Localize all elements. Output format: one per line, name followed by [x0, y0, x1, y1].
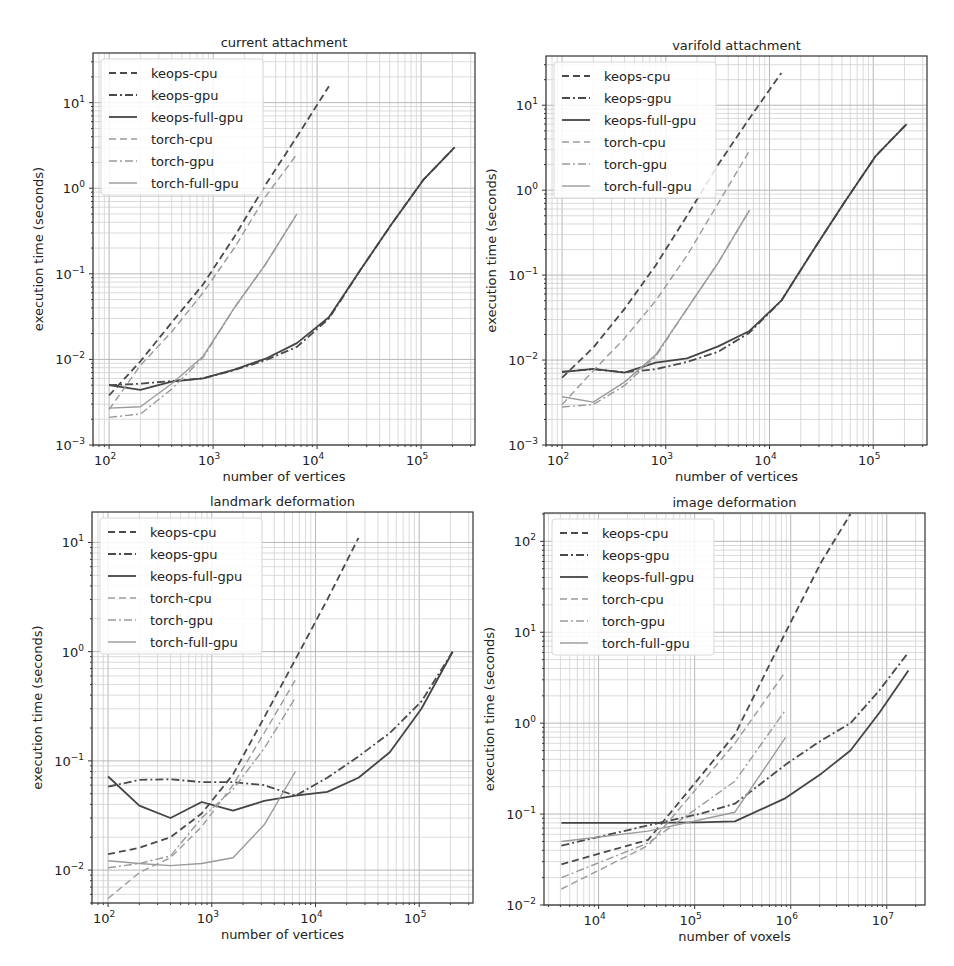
legend-label-keops-cpu: keops-cpu	[150, 525, 216, 540]
x-axis-label: number of vertices	[221, 927, 344, 942]
legend-label-torch-cpu: torch-cpu	[151, 132, 213, 147]
subplot-title: current attachment	[221, 35, 348, 50]
legend-label-torch-full-gpu: torch-full-gpu	[151, 176, 239, 191]
legend: keops-cpukeops-gpukeops-full-gputorch-cp…	[552, 519, 714, 655]
legend-label-keops-gpu: keops-gpu	[602, 548, 669, 563]
y-axis-label: execution time (seconds)	[482, 627, 497, 791]
series-keops-gpu	[561, 652, 908, 845]
y-tick-label: 100	[514, 714, 537, 731]
y-tick-label: 10−3	[55, 436, 85, 453]
subplot-current-attachment: 10210310410510−310−210−1100101current at…	[31, 35, 475, 484]
x-tick-label: 104	[583, 911, 606, 928]
x-tick-label: 102	[94, 451, 116, 468]
y-tick-label: 10−3	[508, 436, 538, 453]
legend-label-torch-full-gpu: torch-full-gpu	[604, 179, 692, 194]
x-tick-label: 103	[197, 909, 219, 926]
subplot-title: image deformation	[672, 495, 796, 510]
legend-label-torch-cpu: torch-cpu	[602, 592, 664, 607]
legend-label-torch-gpu: torch-gpu	[602, 614, 665, 629]
subplot-image-deformation: 10410510610710−210−1100101102image defor…	[482, 495, 925, 944]
y-axis-label: execution time (seconds)	[30, 625, 45, 789]
series-keops-gpu	[108, 652, 453, 796]
y-tick-label: 101	[516, 96, 538, 113]
y-tick-label: 10−1	[508, 266, 538, 283]
legend-label-torch-cpu: torch-cpu	[150, 591, 212, 606]
legend-label-keops-gpu: keops-gpu	[604, 91, 671, 106]
legend-label-torch-full-gpu: torch-full-gpu	[150, 635, 238, 650]
legend-label-keops-cpu: keops-cpu	[151, 66, 217, 81]
x-axis-label: number of voxels	[678, 929, 791, 944]
figure: 10210310410510−310−210−1100101current at…	[0, 0, 954, 966]
y-tick-label: 101	[514, 623, 536, 640]
subplot-title: varifold attachment	[672, 38, 801, 53]
y-tick-label: 10−2	[508, 351, 538, 368]
y-tick-label: 10−1	[54, 752, 84, 769]
y-tick-label: 101	[63, 94, 85, 111]
legend-label-torch-gpu: torch-gpu	[604, 157, 667, 172]
x-tick-label: 104	[300, 909, 323, 926]
legend-label-keops-full-gpu: keops-full-gpu	[150, 569, 242, 584]
y-tick-label: 102	[514, 532, 536, 549]
x-tick-label: 103	[651, 451, 673, 468]
y-tick-label: 10−2	[54, 861, 84, 878]
y-tick-label: 10−2	[55, 350, 85, 367]
x-tick-label: 105	[858, 451, 880, 468]
legend-label-keops-full-gpu: keops-full-gpu	[604, 113, 696, 128]
legend-label-keops-gpu: keops-gpu	[151, 88, 218, 103]
legend: keops-cpukeops-gpukeops-full-gputorch-cp…	[554, 62, 716, 198]
legend: keops-cpukeops-gpukeops-full-gputorch-cp…	[100, 518, 262, 654]
y-tick-label: 10−1	[55, 265, 85, 282]
legend-label-keops-cpu: keops-cpu	[604, 69, 670, 84]
legend-label-torch-gpu: torch-gpu	[151, 154, 214, 169]
y-axis-label: execution time (seconds)	[31, 167, 46, 331]
x-tick-label: 105	[680, 911, 702, 928]
x-tick-label: 107	[872, 911, 894, 928]
x-tick-label: 106	[776, 911, 799, 928]
series-keops-full-gpu	[108, 652, 453, 818]
x-tick-label: 105	[406, 451, 428, 468]
x-tick-label: 102	[547, 451, 569, 468]
y-tick-label: 10−1	[506, 805, 536, 822]
legend-label-keops-cpu: keops-cpu	[602, 526, 668, 541]
y-tick-label: 101	[62, 533, 84, 550]
x-tick-label: 104	[302, 451, 325, 468]
legend-label-keops-full-gpu: keops-full-gpu	[602, 570, 694, 585]
x-tick-label: 104	[754, 451, 777, 468]
subplot-title: landmark deformation	[210, 494, 355, 509]
x-axis-label: number of vertices	[222, 469, 345, 484]
legend-label-keops-full-gpu: keops-full-gpu	[151, 110, 243, 125]
legend-label-torch-full-gpu: torch-full-gpu	[602, 636, 690, 651]
legend: keops-cpukeops-gpukeops-full-gputorch-cp…	[101, 59, 263, 195]
y-tick-label: 100	[63, 179, 86, 196]
y-axis-label: execution time (seconds)	[484, 168, 499, 332]
x-tick-label: 103	[198, 451, 220, 468]
y-tick-label: 100	[62, 643, 85, 660]
legend-label-keops-gpu: keops-gpu	[150, 547, 217, 562]
series-keops-full-gpu	[561, 671, 908, 823]
y-tick-label: 100	[516, 181, 539, 198]
subplot-landmark-deformation: 10210310410510−210−1100101landmark defor…	[30, 494, 473, 942]
y-tick-label: 10−2	[506, 896, 536, 913]
x-tick-label: 102	[93, 909, 115, 926]
x-axis-label: number of vertices	[675, 469, 798, 484]
legend-label-torch-cpu: torch-cpu	[604, 135, 666, 150]
subplot-varifold-attachment: 10210310410510−310−210−1100101varifold a…	[484, 38, 927, 484]
legend-label-torch-gpu: torch-gpu	[150, 613, 213, 628]
x-tick-label: 105	[404, 909, 426, 926]
